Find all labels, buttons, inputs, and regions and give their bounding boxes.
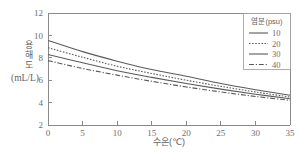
y-tick-label-4: 4 <box>39 98 44 108</box>
x-tick-label-25: 25 <box>216 128 226 138</box>
y-tick-label-6: 6 <box>39 75 44 85</box>
x-tick-label-10: 10 <box>113 128 123 138</box>
legend: 염분(psu) 10203040 <box>244 14 291 70</box>
y-axis-title-char-0: 용 <box>25 40 33 50</box>
y-tick-label-10: 10 <box>34 31 44 41</box>
y-axis-title-char-1: 해 <box>25 50 33 60</box>
x-tick-label-35: 35 <box>286 128 296 138</box>
y-tick-label-12: 12 <box>34 8 43 18</box>
legend-label-30: 30 <box>272 49 281 59</box>
y-tick-label-2: 2 <box>39 120 44 130</box>
x-tick-label-30: 30 <box>251 128 261 138</box>
x-tick-label-5: 5 <box>80 128 85 138</box>
legend-label-20: 20 <box>272 39 281 49</box>
legend-title: 염분(psu) <box>251 17 283 26</box>
x-tick-label-0: 0 <box>46 128 51 138</box>
x-axis-title: 수온(℃) <box>153 137 185 147</box>
y-tick-label-8: 8 <box>39 53 44 63</box>
y-axis-title-char-2: 도 <box>25 60 33 70</box>
solubility-vs-temperature-chart: 24681012 05101520253035 용 해 도 (mL/L) 수온(… <box>0 0 303 152</box>
y-axis-unit-label: (mL/L) <box>11 73 39 84</box>
chart-svg: 24681012 05101520253035 용 해 도 (mL/L) 수온(… <box>0 0 303 152</box>
legend-label-40: 40 <box>272 60 281 70</box>
legend-label-10: 10 <box>272 28 281 38</box>
